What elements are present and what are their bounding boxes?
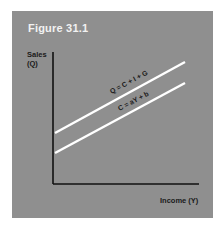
line-q-total [55, 62, 185, 133]
line-c-consumption [55, 83, 185, 153]
plot-area [0, 0, 224, 227]
x-axis-label: Income (Y) [160, 196, 198, 205]
